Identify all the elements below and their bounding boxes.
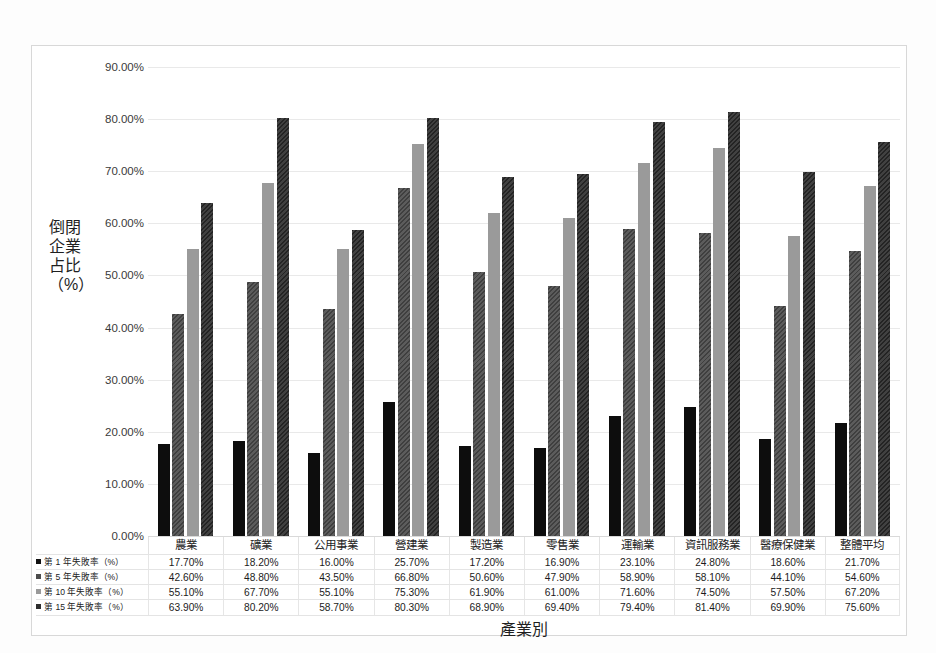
bar[interactable] [563,218,575,536]
bar[interactable] [308,453,320,536]
bar[interactable] [759,439,771,536]
y-axis-tick-label: 90.00% [86,61,144,73]
bar[interactable] [459,446,471,536]
x-axis-category-row: 農業礦業公用事業營建業製造業零售業運輸業資訊服務業醫療保健業整體平均 [148,537,900,554]
table-cell-value: 69.40% [524,600,599,615]
data-table: 第 1 年失敗率（%）17.70%18.20%16.00%25.70%17.20… [36,554,900,614]
bar[interactable] [653,122,665,536]
table-cell-value: 74.50% [674,585,749,600]
table-cell-value: 24.80% [674,555,749,570]
table-row: 第 10 年失敗率（%）55.10%67.70%55.10%75.30%61.9… [36,584,900,600]
bar[interactable] [609,416,621,536]
x-axis-title: 產業別 [148,616,900,640]
y-axis-tick-label: 80.00% [86,113,144,125]
bar[interactable] [398,188,410,536]
y-axis-tick-label: 70.00% [86,165,144,177]
bar[interactable] [383,402,395,536]
bar[interactable] [201,203,213,536]
table-cell-value: 44.10% [750,570,825,585]
bar[interactable] [878,142,890,536]
table-cell-value: 57.50% [750,585,825,600]
table-cell-value: 55.10% [148,585,223,600]
bar[interactable] [323,309,335,536]
legend-item[interactable]: 第 15 年失敗率（%） [36,600,148,615]
table-cell-value: 47.90% [524,570,599,585]
bar[interactable] [473,272,485,536]
legend-item-label: 第 5 年失敗率（%） [44,572,124,582]
table-cell-value: 67.70% [223,585,298,600]
bar-group [383,67,439,536]
x-axis-category-label: 公用事業 [298,537,373,554]
bar-group [158,67,214,536]
table-cell-value: 81.40% [674,600,749,615]
bar[interactable] [352,230,364,536]
table-cell-value: 58.90% [599,570,674,585]
bar-group [459,67,515,536]
bar[interactable] [488,213,500,536]
bar[interactable] [728,112,740,536]
legend-swatch-icon [36,604,41,609]
bar-group [835,67,891,536]
bar[interactable] [337,249,349,536]
y-axis-tick-label: 10.00% [86,478,144,490]
x-axis-category-label: 資訊服務業 [674,537,749,554]
bar[interactable] [835,423,847,536]
bar[interactable] [187,249,199,536]
table-cell-value: 18.20% [223,555,298,570]
bar[interactable] [412,144,424,536]
bar[interactable] [788,236,800,536]
legend-item[interactable]: 第 1 年失敗率（%） [36,555,148,570]
bar[interactable] [849,251,861,536]
table-cell-value: 17.20% [449,555,524,570]
bar[interactable] [277,118,289,536]
bar[interactable] [233,441,245,536]
bar-group [759,67,815,536]
table-cell-value: 50.60% [449,570,524,585]
table-cell-value: 55.10% [298,585,373,600]
table-cell-value: 67.20% [825,585,900,600]
y-axis-tick-label: 20.00% [86,426,144,438]
bar[interactable] [548,286,560,536]
x-axis-category-label: 營建業 [374,537,449,554]
bar[interactable] [699,233,711,536]
bar[interactable] [502,177,514,536]
y-axis-title: 倒閉企業占比（%） [48,218,82,294]
table-cell-value: 42.60% [148,570,223,585]
bar[interactable] [247,282,259,536]
table-cell-value: 21.70% [825,555,900,570]
x-axis-category-label: 運輸業 [599,537,674,554]
table-cell-value: 16.90% [524,555,599,570]
bar[interactable] [427,118,439,536]
bar[interactable] [774,306,786,536]
table-row: 第 1 年失敗率（%）17.70%18.20%16.00%25.70%17.20… [36,554,900,570]
legend-item[interactable]: 第 10 年失敗率（%） [36,585,148,600]
table-cell-value: 48.80% [223,570,298,585]
legend-item[interactable]: 第 5 年失敗率（%） [36,570,148,585]
bar-group [684,67,740,536]
table-cell-value: 17.70% [148,555,223,570]
table-cell-value: 71.60% [599,585,674,600]
bar[interactable] [577,174,589,536]
bar[interactable] [713,148,725,536]
bar[interactable] [262,183,274,536]
plot-area [148,67,900,536]
bar[interactable] [684,407,696,536]
bar[interactable] [623,229,635,536]
table-cell-value: 79.40% [599,600,674,615]
table-cell-value: 16.00% [298,555,373,570]
legend-swatch-icon [36,589,41,594]
bar[interactable] [864,186,876,536]
bar[interactable] [638,163,650,536]
table-cell-value: 68.90% [449,600,524,615]
table-row: 第 15 年失敗率（%）63.90%80.20%58.70%80.30%68.9… [36,599,900,616]
table-cell-value: 75.30% [374,585,449,600]
table-cell-value: 54.60% [825,570,900,585]
bar[interactable] [534,448,546,536]
table-cell-value: 58.10% [674,570,749,585]
legend-item-label: 第 15 年失敗率（%） [44,602,129,612]
bar-group [534,67,590,536]
bar[interactable] [803,172,815,536]
bar[interactable] [172,314,184,536]
x-axis-category-label: 製造業 [449,537,524,554]
bar[interactable] [158,444,170,536]
